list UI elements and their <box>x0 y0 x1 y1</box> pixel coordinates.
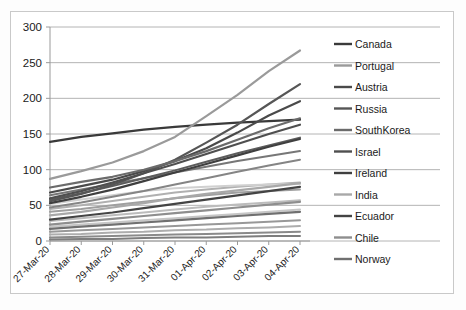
y-tick-label: 100 <box>23 164 42 176</box>
chart-canvas: 300250200150100500 27-Mar-2028-Mar-2029-… <box>0 0 466 310</box>
legend-label-russia: Russia <box>355 103 387 115</box>
series-line-southkorea <box>50 118 300 187</box>
legend-label-austria: Austria <box>355 81 388 93</box>
legend-label-canada: Canada <box>355 38 392 50</box>
legend-label-southkorea: SouthKorea <box>355 124 411 136</box>
legend-label-chile: Chile <box>355 232 379 244</box>
y-tick-label: 250 <box>23 57 42 69</box>
legend-label-portugal: Portugal <box>355 60 394 72</box>
legend-label-israel: Israel <box>355 146 381 158</box>
series-line-russia <box>50 84 300 201</box>
y-tick-label: 200 <box>23 92 42 104</box>
legend-group: CanadaPortugalAustriaRussiaSouthKoreaIsr… <box>334 38 411 265</box>
legend-label-ireland: Ireland <box>355 167 387 179</box>
line-chart-svg: 300250200150100500 27-Mar-2028-Mar-2029-… <box>0 0 466 310</box>
x-tick-label: 04-Apr-20 <box>262 243 302 283</box>
x-tick-labels-group: 27-Mar-2028-Mar-2029-Mar-2030-Mar-2031-M… <box>11 243 302 284</box>
series-line <box>50 160 300 208</box>
y-tick-label: 300 <box>23 21 42 33</box>
y-tick-labels-group: 300250200150100500 <box>23 21 42 247</box>
legend-label-india: India <box>355 189 378 201</box>
chart-screenshot: 300250200150100500 27-Mar-2028-Mar-2029-… <box>0 0 466 310</box>
legend-label-norway: Norway <box>355 253 391 265</box>
y-tick-label: 150 <box>23 128 42 140</box>
legend-label-ecuador: Ecuador <box>355 210 395 222</box>
y-tick-label: 50 <box>29 199 42 211</box>
x-axis-group <box>50 241 310 245</box>
